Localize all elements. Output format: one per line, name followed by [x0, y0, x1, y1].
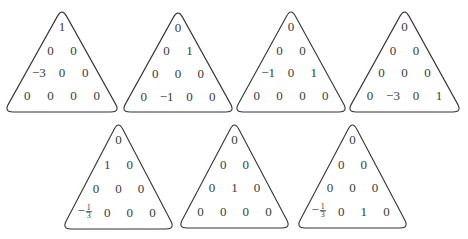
array-entry: 0	[276, 43, 283, 56]
array-entry: 0	[254, 89, 261, 102]
array-entry: 0	[243, 157, 250, 170]
array-entry: 0	[299, 43, 306, 56]
array-entry: 0	[243, 204, 250, 217]
array-entry: 0	[127, 158, 134, 171]
triangle-array-4: 0000000−301	[347, 8, 462, 112]
array-entry: 0	[138, 181, 145, 194]
triangle-array-1: 100−3000000	[4, 8, 120, 112]
array-entry: 0	[24, 89, 31, 102]
array-entry: 0	[288, 66, 295, 79]
array-entry: 0	[424, 66, 431, 79]
array-entry: 0	[93, 181, 100, 194]
array-entry: 0	[231, 133, 238, 146]
array-entry: 1	[311, 66, 318, 79]
array-entry: 0	[361, 157, 368, 170]
array-entry: 0	[338, 157, 345, 170]
array-entry: −3	[386, 89, 400, 102]
array-entry: 0	[175, 20, 182, 33]
array-entry: 0	[127, 205, 134, 218]
array-entry: 1	[361, 204, 368, 217]
array-entry: 1	[186, 44, 193, 57]
array-entry: 1	[104, 158, 111, 171]
array-entry: 0	[186, 89, 193, 102]
array-entry: 0	[59, 66, 66, 79]
array-entry: 0	[220, 157, 227, 170]
array-entry: 0	[327, 181, 334, 194]
array-entry: 0	[349, 133, 356, 146]
array-entry: 0	[152, 66, 159, 79]
array-entry: −3	[32, 66, 46, 79]
triangle-array-5: 010000−13000	[62, 121, 175, 229]
array-entry: 0	[390, 43, 397, 56]
triangle-array-7: 000000−13010	[296, 121, 409, 228]
array-entry: 0	[372, 181, 379, 194]
array-entry: 0	[47, 43, 54, 56]
array-entry: 0	[104, 205, 111, 218]
array-entry: 0	[322, 89, 329, 102]
array-entry: 0	[288, 19, 295, 32]
array-entry: 0	[401, 19, 408, 32]
array-entry: 0	[149, 205, 156, 218]
array-entry: 0	[115, 181, 122, 194]
array-entry: 0	[413, 43, 420, 56]
array-entry: 0	[349, 181, 356, 194]
array-entry: 0	[141, 89, 148, 102]
array-entry: 0	[209, 89, 216, 102]
array-entry: −13	[77, 204, 91, 220]
array-entry: 1	[59, 19, 66, 32]
triangle-array-2: 0010000−100	[121, 9, 235, 112]
array-entry: 0	[378, 66, 385, 79]
array-entry: 0	[220, 204, 227, 217]
array-entry: 0	[367, 89, 374, 102]
array-entry: 0	[70, 43, 77, 56]
array-entry: −13	[311, 203, 325, 219]
array-entry: 0	[265, 204, 272, 217]
array-entry: 0	[254, 181, 261, 194]
array-entry: 0	[198, 66, 205, 79]
array-entry: 0	[163, 44, 170, 57]
array-entry: 0	[299, 89, 306, 102]
array-entry: −1	[160, 89, 174, 102]
array-entry: 0	[47, 89, 54, 102]
array-entry: 0	[175, 66, 182, 79]
array-entry: −1	[261, 66, 275, 79]
array-entry: 1	[436, 89, 443, 102]
array-entry: 0	[383, 204, 390, 217]
array-entry: 0	[276, 89, 283, 102]
triangle-array-6: 0000100000	[178, 121, 291, 228]
array-entry: 0	[115, 133, 122, 146]
array-entry: 0	[94, 89, 101, 102]
array-entry: 1	[231, 181, 238, 194]
array-entry: 0	[338, 204, 345, 217]
array-entry: 0	[209, 181, 216, 194]
array-entry: 0	[413, 89, 420, 102]
array-entry: 0	[82, 66, 89, 79]
array-entry: 0	[401, 66, 408, 79]
array-entry: 0	[70, 89, 77, 102]
array-entry: 0	[197, 204, 204, 217]
triangle-array-3: 000−1010000	[234, 8, 348, 112]
